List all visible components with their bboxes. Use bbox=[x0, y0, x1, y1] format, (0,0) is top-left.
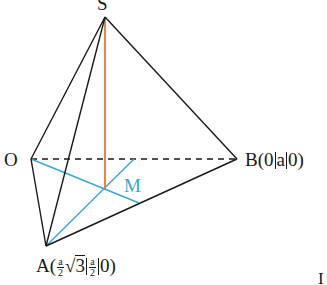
label-A-z: 0 bbox=[100, 255, 110, 276]
edge-SB bbox=[105, 17, 237, 159]
label-B-letter: B bbox=[245, 149, 258, 170]
label-A-letter: A bbox=[36, 255, 50, 276]
label-A: A(a2√3a20) bbox=[36, 255, 116, 278]
label-A-close: ) bbox=[110, 255, 116, 276]
median-from-O bbox=[31, 159, 139, 203]
label-B-y: a bbox=[277, 149, 285, 170]
edge-AB bbox=[46, 159, 237, 246]
edge-SO bbox=[31, 17, 105, 159]
sqrt-argument: 3 bbox=[75, 255, 86, 275]
label-A-open: ( bbox=[50, 255, 56, 276]
label-B-x: 0 bbox=[264, 149, 274, 170]
fraction-a-over-2: a2 bbox=[57, 257, 64, 278]
pyramid-figure bbox=[0, 0, 327, 285]
edge-OA bbox=[31, 159, 46, 246]
separator bbox=[286, 152, 287, 169]
median-from-A bbox=[46, 159, 134, 246]
label-B: B(0a0) bbox=[245, 150, 304, 169]
corner-mark: I bbox=[318, 270, 324, 285]
separator bbox=[98, 258, 99, 275]
edge-SA bbox=[46, 17, 105, 246]
label-M: M bbox=[124, 176, 141, 195]
label-S: S bbox=[97, 0, 108, 13]
separator bbox=[86, 258, 87, 275]
fraction-a-over-2: a2 bbox=[89, 257, 96, 278]
separator bbox=[275, 152, 276, 169]
label-B-close: ) bbox=[297, 149, 303, 170]
label-O: O bbox=[4, 150, 18, 169]
